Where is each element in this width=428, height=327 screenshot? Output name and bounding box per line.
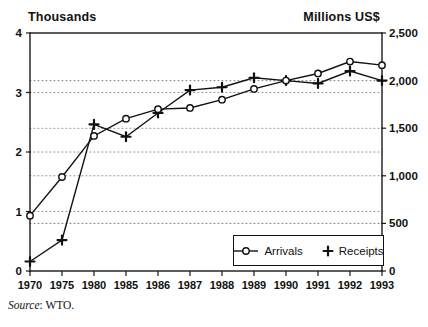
arrivals-line [30,62,382,216]
left-axis-tick-label: 0 [16,265,22,277]
left-axis-tick-label: 2 [16,146,22,158]
arrivals-point [123,115,129,121]
arrivals-point [91,133,97,139]
source-caption: Source: WTO. [8,299,74,311]
arrivals-line-circle-icon [233,246,259,256]
figure: Thousands Millions US$ 0123405001,0001,5… [0,0,428,327]
legend-item-receipts: Receipts [322,245,384,257]
x-axis-tick-label: 1988 [210,279,234,291]
arrivals-point [27,212,33,218]
legend-item-arrivals: Arrivals [233,245,302,257]
x-axis-tick-label: 1987 [178,279,202,291]
x-axis-tick-label: 1985 [114,279,138,291]
x-axis-tick-label: 1986 [146,279,170,291]
arrivals-point [379,62,385,68]
right-axis-tick-label: 1,000 [389,170,418,182]
source-text: : WTO. [40,299,75,311]
arrivals-point [283,77,289,83]
right-axis-tick-label: 1,500 [389,122,418,134]
arrivals-point [315,70,321,76]
x-axis-tick-label: 1992 [338,279,362,291]
x-axis-tick-label: 1989 [242,279,266,291]
x-axis-tick-label: 1970 [18,279,42,291]
x-axis-tick-label: 1990 [274,279,298,291]
right-axis-tick-label: 2,000 [389,75,418,87]
left-axis-tick-label: 1 [16,206,23,218]
legend-label-arrivals: Arrivals [264,245,302,257]
source-word: Source [8,299,40,311]
legend-label-receipts: Receipts [339,245,384,257]
arrivals-point [59,174,65,180]
arrivals-point [187,105,193,111]
left-axis-tick-label: 3 [16,87,22,99]
x-axis-tick-label: 1991 [306,279,330,291]
arrivals-point [347,58,353,64]
left-axis-tick-label: 4 [16,27,23,39]
x-axis-tick-label: 1975 [50,279,74,291]
arrivals-point [155,106,161,112]
right-axis-tick-label: 0 [389,265,395,277]
x-axis-tick-label: 1980 [82,279,106,291]
x-axis-tick-label: 1993 [370,279,394,291]
receipts-plus-icon [322,245,334,257]
legend: Arrivals Receipts [233,235,384,266]
arrivals-point [219,96,225,102]
arrivals-point [251,86,257,92]
receipts-line [30,71,382,261]
right-axis-tick-label: 2,500 [389,27,418,39]
right-axis-tick-label: 500 [389,217,408,229]
